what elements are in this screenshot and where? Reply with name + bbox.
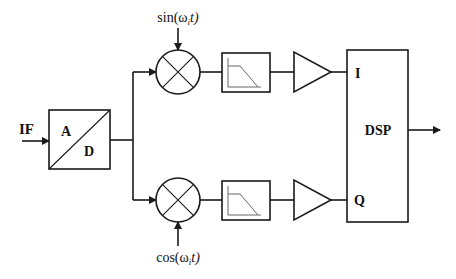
adc-label-d: D	[84, 144, 94, 159]
iq-demodulator-diagram: IF A D sin(ωit) cos(ωit)	[0, 0, 456, 279]
upper-mixer	[156, 50, 200, 94]
upper-lowpass-filter	[222, 53, 270, 92]
sin-lo-label: sin(ωit)	[157, 10, 199, 27]
upper-amplifier	[294, 52, 331, 92]
cos-lo-label: cos(ωit)	[156, 250, 200, 267]
adc-label-a: A	[61, 124, 72, 139]
dsp-input-q-label: Q	[354, 193, 365, 208]
adc-block: A D	[49, 110, 110, 169]
lower-mixer	[156, 178, 200, 222]
dsp-label: DSP	[365, 123, 392, 138]
lower-amplifier	[294, 180, 331, 220]
dsp-block: I Q DSP	[347, 50, 408, 222]
lower-lowpass-filter	[222, 181, 270, 220]
if-input-label: IF	[19, 121, 34, 137]
dsp-input-i-label: I	[355, 66, 360, 81]
